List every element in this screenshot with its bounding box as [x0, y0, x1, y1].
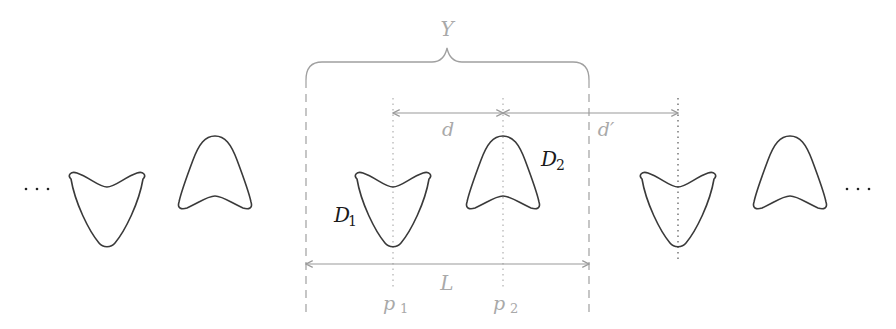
svg-text:D: D	[540, 147, 557, 171]
ellipsis-right	[846, 188, 871, 191]
domain-d2-label: D 2	[540, 147, 565, 173]
ellipsis-left	[25, 188, 50, 191]
point-1-label: p 1	[383, 292, 408, 316]
domain-d1-label: D 1	[333, 203, 357, 229]
svg-text:1: 1	[400, 301, 408, 316]
a-domain-shape	[178, 136, 251, 209]
periodic-domain-diagram: Y d d′ L p 1 p 2 D 1 D 2	[0, 0, 896, 329]
svg-text:p: p	[493, 292, 505, 314]
svg-text:1: 1	[348, 213, 357, 229]
period-length-label: L	[439, 271, 453, 295]
point-2-label: p 2	[493, 292, 518, 316]
brace-label-y: Y	[440, 17, 455, 41]
svg-text:2: 2	[510, 301, 518, 316]
brace-y	[306, 48, 589, 80]
svg-text:p: p	[383, 292, 395, 314]
distance-d-prime-label: d′	[598, 118, 615, 140]
v-domain-shape	[69, 172, 144, 246]
distance-d-label: d	[442, 118, 454, 140]
svg-text:2: 2	[556, 157, 565, 173]
a-domain-shape	[753, 136, 826, 209]
